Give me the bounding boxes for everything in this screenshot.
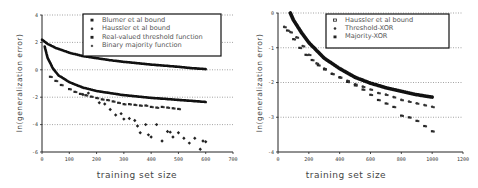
y-tick-label: -1 — [268, 45, 274, 51]
x-tick-label: 1000 — [426, 156, 438, 162]
legend-entry: Blumer et al bound — [102, 16, 165, 24]
legend: Blumer et al boundHaussler et al boundRe… — [83, 14, 221, 56]
y-axis-label: ln(generalization error) — [255, 34, 264, 133]
legend-entry: Haussler et al bound — [102, 24, 170, 32]
x-tick-label: 400 — [335, 156, 344, 162]
legend-entry: Majority-XOR — [345, 32, 388, 40]
legend-entry: Threshold-XOR — [344, 24, 394, 32]
x-tick-label: 700 — [228, 156, 237, 162]
y-tick-label: -2 — [268, 79, 274, 85]
chart-panel-right: 0-1-2-3-4020040060080010001200training s… — [255, 10, 469, 180]
x-tick-label: 200 — [92, 156, 101, 162]
x-tick-label: 600 — [201, 156, 210, 162]
x-axis-label: training set size — [97, 170, 177, 180]
y-tick-label: -4 — [268, 149, 274, 155]
x-tick-label: 300 — [119, 156, 128, 162]
x-tick-label: 100 — [65, 156, 74, 162]
legend-entry: Real-valued threshold function — [102, 33, 203, 41]
y-tick-label: 4 — [35, 12, 38, 18]
chart-canvas: 420-2-4-60100200300400500600700training … — [0, 0, 478, 188]
x-tick-label: 400 — [147, 156, 156, 162]
y-tick-label: -2 — [32, 94, 38, 100]
legend: Haussler et al boundThreshold-XORMajorit… — [326, 14, 449, 48]
x-tick-label: 500 — [174, 156, 183, 162]
y-tick-label: 0 — [35, 67, 38, 73]
x-tick-label: 200 — [304, 156, 313, 162]
y-tick-label: -6 — [32, 149, 38, 155]
legend-entry: Binary majority function — [102, 41, 182, 49]
x-tick-label: 600 — [366, 156, 375, 162]
y-tick-label: 0 — [271, 10, 274, 16]
figure: 420-2-4-60100200300400500600700training … — [0, 0, 478, 188]
x-tick-label: 0 — [40, 156, 43, 162]
legend-entry: Haussler et al bound — [345, 16, 413, 24]
y-tick-label: 2 — [35, 39, 38, 45]
chart-panel-left: 420-2-4-60100200300400500600700training … — [15, 12, 238, 180]
x-tick-label: 1200 — [457, 156, 469, 162]
y-tick-label: -4 — [32, 121, 38, 127]
y-tick-label: -3 — [268, 114, 274, 120]
x-tick-label: 800 — [397, 156, 406, 162]
x-tick-label: 0 — [276, 156, 279, 162]
y-axis-label: ln(generalization error) — [15, 34, 24, 133]
x-axis-label: training set size — [306, 170, 386, 180]
